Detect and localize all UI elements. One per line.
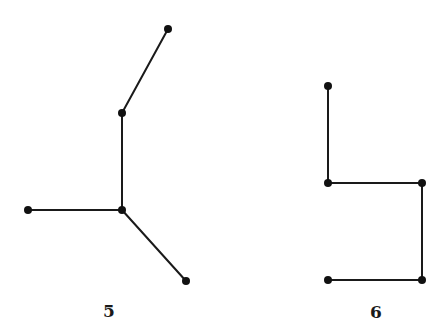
graph-5-node-b bbox=[118, 109, 126, 117]
graph-6-node-e bbox=[324, 276, 332, 284]
graph-5-node-a bbox=[164, 25, 172, 33]
graph-5-node-d bbox=[24, 206, 32, 214]
graph-5: 5 bbox=[24, 25, 190, 321]
graph-6-node-c bbox=[418, 179, 426, 187]
graph-6-label: 6 bbox=[370, 302, 382, 322]
graph-5-node-c bbox=[118, 206, 126, 214]
graph-5-label: 5 bbox=[103, 301, 115, 321]
graph-6-node-a bbox=[324, 82, 332, 90]
graph-5-node-e bbox=[182, 277, 190, 285]
graph-6: 6 bbox=[324, 82, 426, 322]
graph-5-edge-a-b bbox=[122, 29, 168, 113]
graph-diagram: 5 6 bbox=[0, 0, 439, 333]
graph-5-edge-c-e bbox=[122, 210, 186, 281]
graph-6-node-d bbox=[418, 276, 426, 284]
graph-6-node-b bbox=[324, 179, 332, 187]
